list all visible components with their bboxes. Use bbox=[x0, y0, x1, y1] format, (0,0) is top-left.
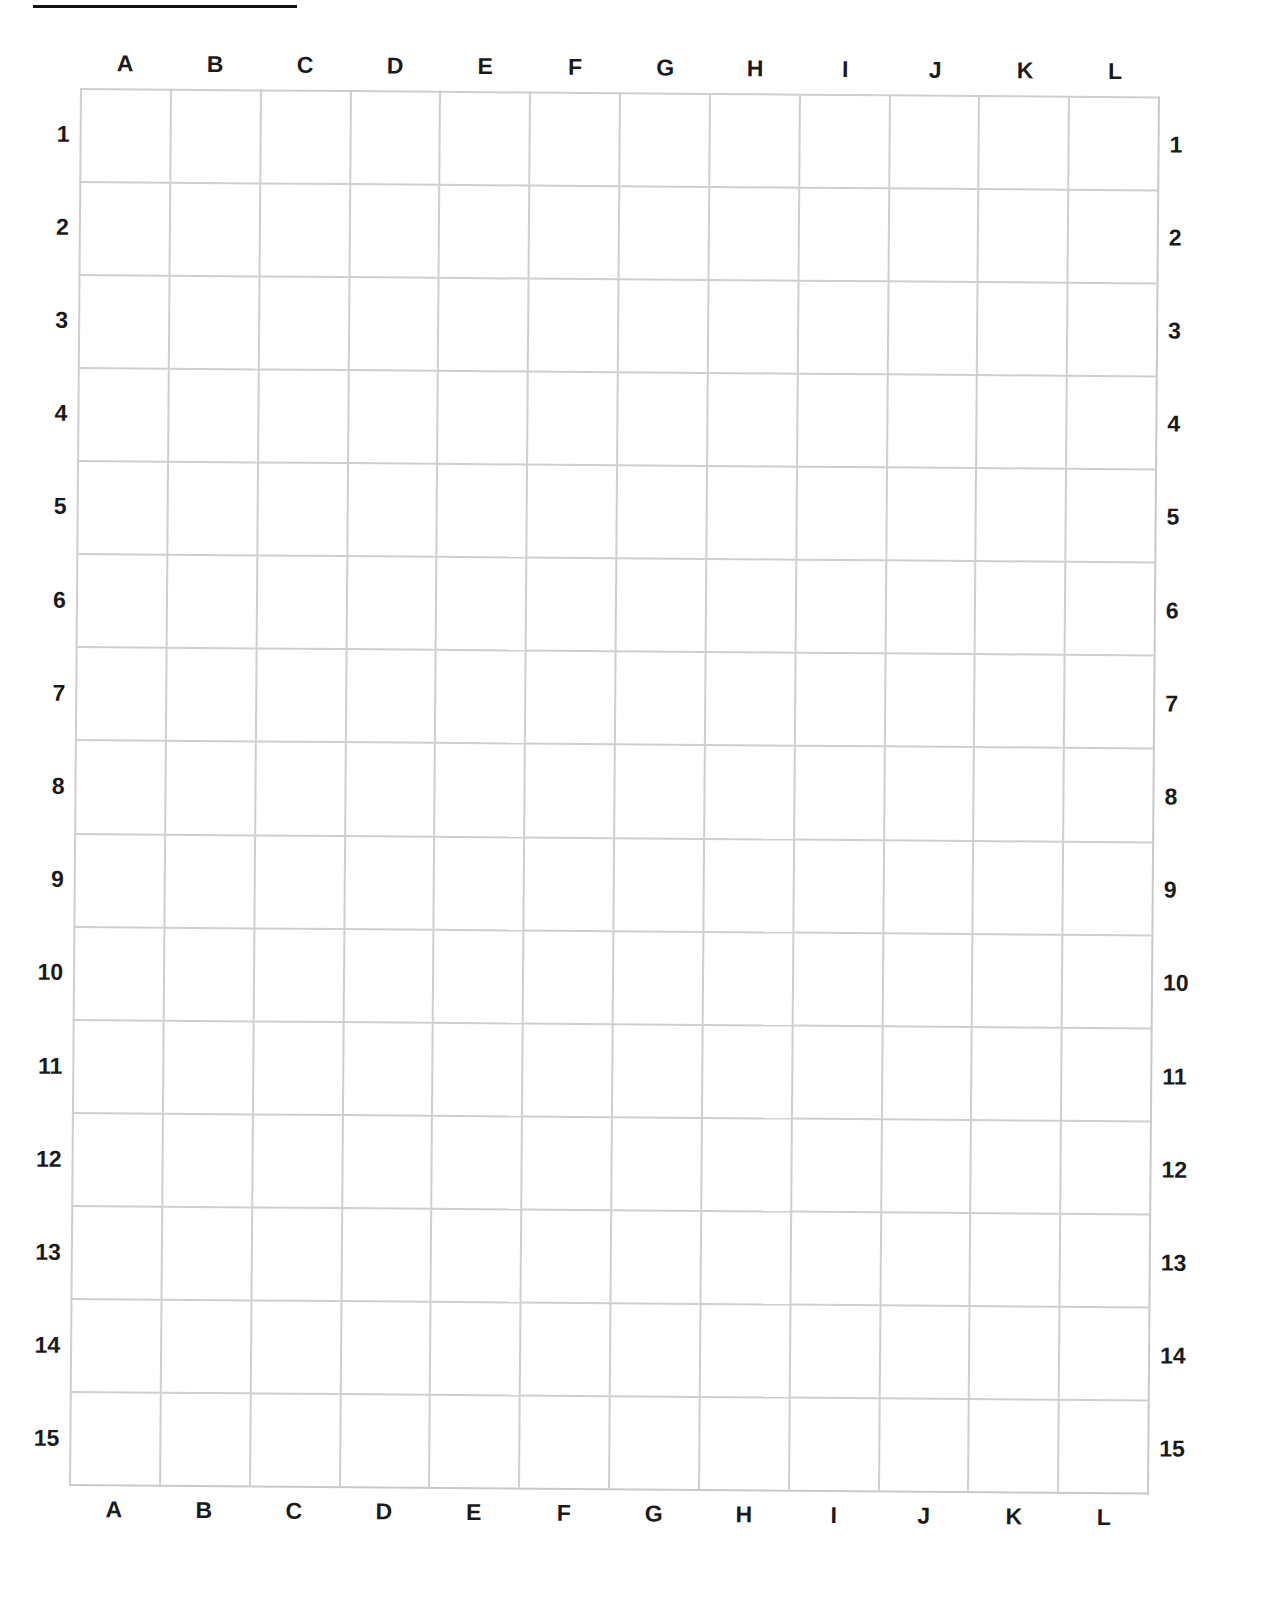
grid-cell-k9 bbox=[972, 840, 1063, 934]
grid-cell-b13 bbox=[160, 1205, 251, 1299]
grid-cell-i10 bbox=[791, 931, 882, 1025]
grid-cell-l1 bbox=[1067, 96, 1158, 190]
grid-cell-f6 bbox=[525, 557, 616, 651]
grid-cell-k2 bbox=[977, 188, 1068, 282]
grid-cell-l3 bbox=[1066, 282, 1157, 376]
grid-cell-e6 bbox=[435, 556, 526, 650]
grid-cell-f12 bbox=[520, 1115, 611, 1209]
grid-cell-h4 bbox=[706, 372, 797, 466]
grid-cell-b9 bbox=[163, 833, 254, 927]
grid-cell-j12 bbox=[880, 1118, 971, 1212]
grid-cell-c10 bbox=[252, 927, 343, 1021]
row-label-15: 15 bbox=[1159, 1436, 1199, 1463]
grid-cell-l6 bbox=[1064, 561, 1155, 655]
grid-cell-i2 bbox=[797, 187, 888, 281]
grid-cell-f14 bbox=[519, 1301, 610, 1395]
grid-cell-g1 bbox=[618, 92, 709, 186]
grid-cell-a7 bbox=[75, 646, 166, 740]
row-label-8: 8 bbox=[24, 773, 64, 800]
grid-cell-k6 bbox=[974, 560, 1065, 654]
row-label-6: 6 bbox=[1166, 597, 1206, 624]
grid-cell-e3 bbox=[437, 277, 528, 371]
row-label-1: 1 bbox=[1169, 131, 1209, 158]
column-label-k: K bbox=[969, 1503, 1059, 1531]
grid-cell-d3 bbox=[347, 276, 438, 370]
column-label-f: F bbox=[530, 54, 620, 82]
grid-cell-l10 bbox=[1061, 933, 1152, 1027]
grid-cell-j4 bbox=[886, 374, 977, 468]
grid-cell-c8 bbox=[254, 741, 345, 835]
grid-cell-i11 bbox=[791, 1024, 882, 1118]
grid-cell-j10 bbox=[881, 932, 972, 1026]
column-labels-bottom: ABCDEFGHIJKL bbox=[1, 0, 1281, 9]
grid-cell-d13 bbox=[340, 1207, 431, 1301]
column-label-d: D bbox=[339, 1498, 429, 1526]
grid-cell-b2 bbox=[168, 182, 259, 276]
grid-cell-d11 bbox=[341, 1021, 432, 1115]
grid-cell-a10 bbox=[73, 926, 164, 1020]
grid-cell-a8 bbox=[74, 739, 165, 833]
row-labels-right: 123456789101112131415 bbox=[1, 0, 1281, 9]
grid-cell-h6 bbox=[704, 558, 795, 652]
row-label-11: 11 bbox=[1162, 1063, 1202, 1090]
grid-cell-j9 bbox=[882, 839, 973, 933]
grid-cell-g10 bbox=[612, 930, 703, 1024]
grid-cell-c12 bbox=[251, 1113, 342, 1207]
grid-cell-d8 bbox=[344, 742, 435, 836]
grid-cell-b5 bbox=[166, 461, 257, 555]
grid-cell-j8 bbox=[883, 746, 974, 840]
row-label-13: 13 bbox=[21, 1239, 61, 1266]
grid-cell-g3 bbox=[617, 278, 708, 372]
row-labels-left: 123456789101112131415 bbox=[1, 0, 1281, 9]
column-label-a: A bbox=[69, 1496, 159, 1524]
grid-cell-k4 bbox=[975, 374, 1066, 468]
grid-cell-l15 bbox=[1057, 1399, 1148, 1493]
grid-cell-l9 bbox=[1062, 840, 1153, 934]
grid-cell-h10 bbox=[701, 931, 792, 1025]
grid-cell-a4 bbox=[77, 367, 168, 461]
row-label-2: 2 bbox=[29, 213, 69, 240]
grid-cell-j14 bbox=[878, 1304, 969, 1398]
column-label-h: H bbox=[710, 55, 800, 83]
grid-cell-k10 bbox=[971, 933, 1062, 1027]
grid-cell-k14 bbox=[968, 1305, 1059, 1399]
grid-cell-f15 bbox=[518, 1394, 609, 1488]
grid-cell-g13 bbox=[609, 1209, 700, 1303]
grid-cell-h9 bbox=[702, 837, 793, 931]
column-label-b: B bbox=[170, 51, 260, 79]
grid-cell-i7 bbox=[794, 652, 885, 746]
grid-cell-l7 bbox=[1063, 654, 1154, 748]
grid-cell-c4 bbox=[257, 369, 348, 463]
grid-cell-f5 bbox=[525, 464, 616, 558]
grid-cell-k8 bbox=[972, 746, 1063, 840]
row-label-4: 4 bbox=[1167, 411, 1207, 438]
grid-cell-i1 bbox=[798, 94, 889, 188]
row-label-12: 12 bbox=[21, 1145, 61, 1172]
grid-cell-a11 bbox=[72, 1019, 163, 1113]
column-label-c: C bbox=[260, 51, 350, 79]
grid-cell-j11 bbox=[880, 1025, 971, 1119]
row-label-10: 10 bbox=[1163, 970, 1203, 997]
grid-cell-i4 bbox=[796, 373, 887, 467]
grid-cell-h1 bbox=[708, 93, 799, 187]
grid-cell-b15 bbox=[159, 1392, 250, 1486]
column-label-l: L bbox=[1059, 1504, 1149, 1532]
grid-cell-e12 bbox=[431, 1115, 522, 1209]
grid-cell-d14 bbox=[339, 1300, 430, 1394]
column-label-i: I bbox=[800, 56, 890, 84]
grid-cell-l14 bbox=[1058, 1306, 1149, 1400]
column-label-d: D bbox=[350, 52, 440, 80]
column-label-l: L bbox=[1070, 58, 1160, 86]
grid-cell-i9 bbox=[792, 838, 883, 932]
row-label-3: 3 bbox=[1168, 318, 1208, 345]
column-labels-top: ABCDEFGHIJKL bbox=[1, 0, 1281, 9]
row-label-14: 14 bbox=[20, 1332, 60, 1359]
column-label-e: E bbox=[429, 1499, 519, 1527]
column-label-g: G bbox=[609, 1500, 699, 1528]
grid-cell-l4 bbox=[1065, 375, 1156, 469]
grid-cell-g2 bbox=[618, 185, 709, 279]
grid-cell-a1 bbox=[79, 88, 170, 182]
grid-sheet: ABCDEFGHIJKL ABCDEFGHIJKL 12345678910111… bbox=[0, 0, 1281, 1614]
row-label-9: 9 bbox=[1164, 877, 1204, 904]
grid-cell-a14 bbox=[70, 1298, 161, 1392]
